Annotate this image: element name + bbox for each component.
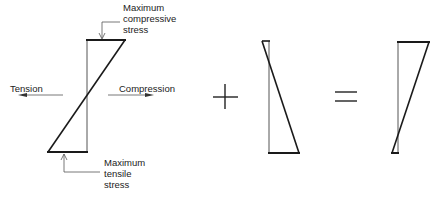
max-tensile-label-1: Maximum [104,157,145,168]
panel-resultant-stress [391,42,430,153]
equals-operator-icon [335,92,357,101]
panel-axial-stress [262,41,300,153]
tension-label: Tension [10,83,43,94]
compression-label: Compression [119,83,175,94]
tensile-leader-line [64,154,100,172]
stress-diagram: Maximum compressive stress Maximum tensi… [0,0,432,202]
max-compressive-label-1: Maximum [123,2,164,13]
max-compressive-label-3: stress [123,24,149,35]
panel-bending-stress: Maximum compressive stress Maximum tensi… [10,2,176,190]
max-compressive-label-2: compressive [123,13,176,24]
max-tensile-label-2: tensile [104,168,131,179]
diagonal-line [262,41,299,153]
compressive-leader-line [102,22,120,38]
plus-operator-icon [213,84,238,109]
max-tensile-label-3: stress [104,179,130,190]
